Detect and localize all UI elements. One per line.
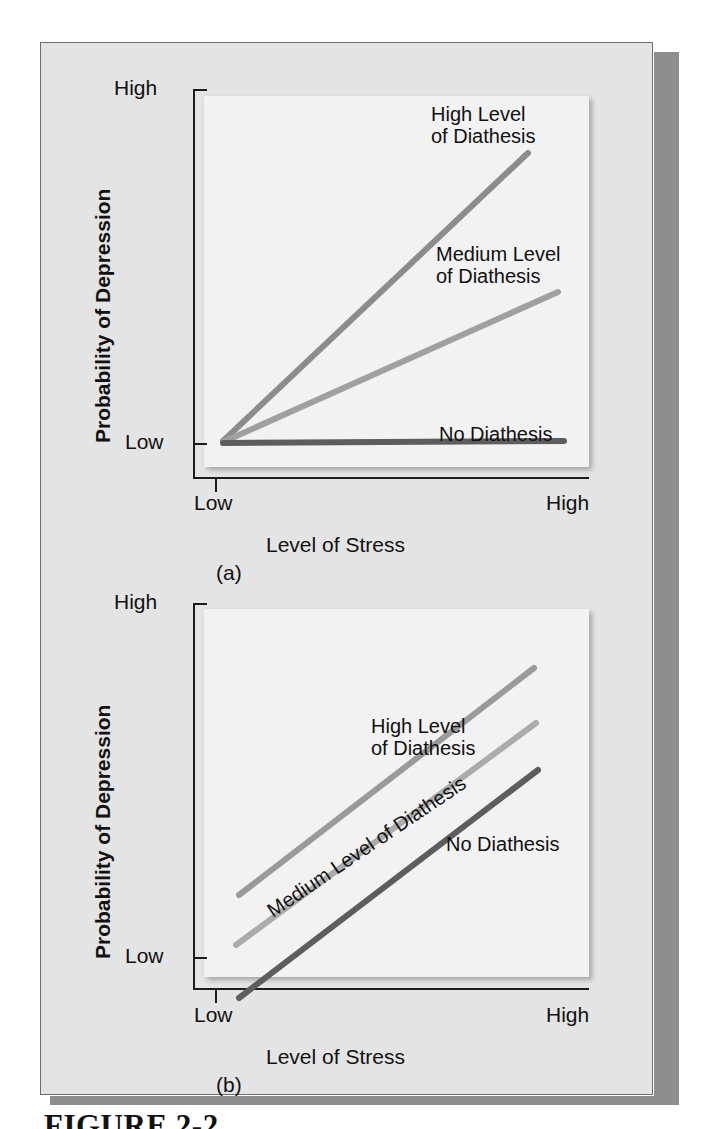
y-axis-line-a	[193, 89, 195, 479]
series-label-medium-diathesis-a: Medium Level of Diathesis	[436, 243, 561, 288]
x-tick-label-low-b: Low	[194, 1003, 233, 1027]
x-tick-label-high-a: High	[546, 491, 589, 515]
series-label-high-diathesis-b: High Level of Diathesis	[371, 715, 476, 760]
x-axis-tick-low-a	[215, 478, 217, 492]
figure-frame: High Level of Diathesis Medium Level of …	[40, 42, 653, 1095]
chart-panel-a: High Level of Diathesis Medium Level of …	[41, 43, 654, 573]
x-tick-label-low-a: Low	[194, 491, 233, 515]
x-axis-line-a	[193, 477, 589, 479]
figure-caption: FIGURE 2-2	[44, 1108, 219, 1129]
y-axis-title-b: Probability of Depression	[91, 705, 115, 959]
y-tick-label-low-a: Low	[125, 430, 164, 454]
figure-drop-shadow-bottom	[50, 1096, 679, 1105]
x-axis-title-a: Level of Stress	[266, 533, 405, 557]
chart-panel-b: High Level of Diathesis Medium Level of …	[41, 563, 654, 1096]
y-tick-label-high-b: High	[114, 590, 157, 614]
x-tick-label-high-b: High	[546, 1003, 589, 1027]
y-axis-tick-low-b	[194, 957, 207, 959]
y-axis-tick-high-a	[194, 89, 207, 91]
x-axis-title-b: Level of Stress	[266, 1045, 405, 1069]
figure-drop-shadow-right	[654, 52, 679, 1105]
panel-letter-b: (b)	[216, 1073, 242, 1097]
plot-area-b	[204, 609, 589, 977]
series-label-high-diathesis-a: High Level of Diathesis	[431, 103, 536, 148]
x-axis-tick-low-b	[215, 989, 217, 1003]
y-axis-title-a: Probability of Depression	[91, 189, 115, 443]
series-label-no-diathesis-a: No Diathesis	[439, 423, 552, 445]
x-axis-line-b	[193, 988, 589, 990]
y-tick-label-high-a: High	[114, 76, 157, 100]
y-axis-tick-low-a	[194, 443, 207, 445]
series-label-no-diathesis-b: No Diathesis	[446, 833, 559, 855]
y-axis-line-b	[193, 603, 195, 990]
y-axis-tick-high-b	[194, 603, 207, 605]
y-tick-label-low-b: Low	[125, 944, 164, 968]
